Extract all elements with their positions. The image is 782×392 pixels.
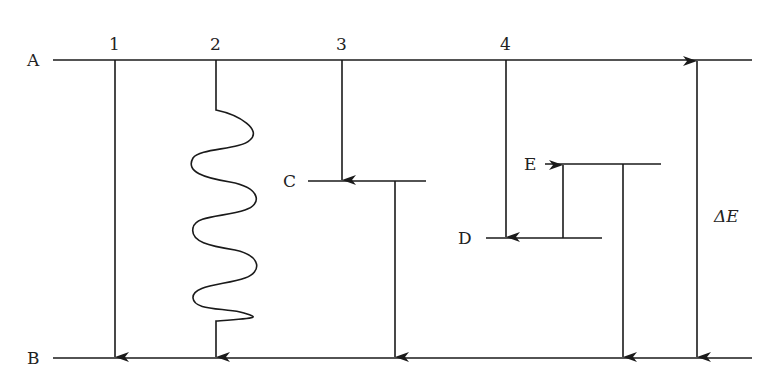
- level-d-label: D: [458, 228, 472, 248]
- level-a: A: [26, 50, 752, 70]
- transition-3: 3: [336, 34, 395, 357]
- energy-gap-label: ΔE: [713, 206, 739, 226]
- level-b-label: B: [27, 348, 40, 368]
- energy-level-diagram: A B C D E 1 2 3 4: [0, 0, 782, 392]
- level-c: C: [283, 171, 426, 191]
- transition-3-label: 3: [336, 34, 347, 54]
- transition-4-label: 4: [500, 34, 511, 54]
- level-e-label: E: [524, 154, 536, 174]
- level-e: E: [524, 154, 661, 174]
- transition-1: 1: [109, 34, 120, 357]
- level-a-label: A: [26, 50, 40, 70]
- level-b: B: [27, 348, 752, 368]
- transition-4: 4: [500, 34, 623, 357]
- transition-2-label: 2: [210, 34, 221, 54]
- transition-1-label: 1: [109, 34, 120, 54]
- energy-gap: ΔE: [697, 61, 739, 357]
- level-d: D: [458, 228, 602, 248]
- level-c-label: C: [283, 171, 296, 191]
- transition-2: 2: [191, 34, 257, 357]
- wavy-arrow-icon: [191, 60, 257, 357]
